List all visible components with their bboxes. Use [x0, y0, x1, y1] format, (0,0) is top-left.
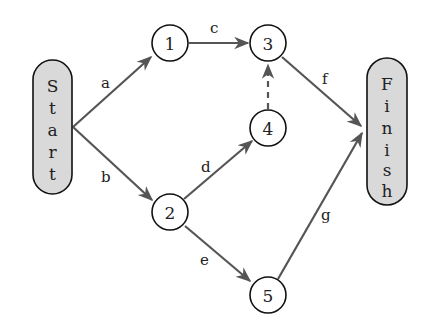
- edge-label-a: a: [101, 74, 110, 92]
- finish-letter: s: [383, 160, 392, 180]
- edge-d: [184, 141, 252, 199]
- svg-text:5: 5: [263, 286, 274, 306]
- start-letter: S: [47, 76, 59, 96]
- edge-label-b: b: [101, 168, 111, 186]
- edge-f: [282, 57, 361, 126]
- edge-g: [278, 133, 362, 279]
- edge-label-c: c: [210, 19, 218, 37]
- finish-letter: h: [382, 181, 393, 201]
- start-letter: t: [49, 164, 56, 184]
- node-2: 2: [152, 194, 188, 230]
- start-letter: a: [47, 120, 57, 140]
- finish-letter: i: [384, 96, 390, 116]
- svg-text:4: 4: [263, 119, 274, 139]
- finish-letter: n: [382, 118, 393, 138]
- edge-e: [185, 226, 250, 281]
- start-letter: r: [48, 142, 57, 162]
- edge-a: [73, 57, 151, 127]
- node-5: 5: [250, 277, 286, 313]
- start-terminal: S t a r t: [33, 60, 72, 194]
- finish-terminal: F i n i s h: [367, 58, 407, 205]
- node-3: 3: [250, 25, 286, 61]
- svg-text:3: 3: [263, 34, 274, 54]
- finish-letter: F: [381, 74, 393, 94]
- network-diagram: a b c d e f g S t a r t F i n i s h 1 3 …: [0, 0, 423, 336]
- finish-letter: i: [384, 140, 390, 160]
- node-4: 4: [250, 110, 286, 146]
- edge-label-g: g: [321, 206, 331, 224]
- edge-label-f: f: [322, 70, 329, 88]
- edge-b: [73, 127, 152, 200]
- edge-label-d: d: [201, 158, 211, 176]
- start-letter: t: [49, 98, 56, 118]
- svg-text:1: 1: [165, 34, 176, 54]
- svg-text:2: 2: [165, 203, 176, 223]
- node-1: 1: [152, 25, 188, 61]
- edge-label-e: e: [200, 251, 209, 269]
